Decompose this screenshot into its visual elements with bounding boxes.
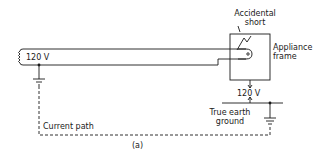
accidental-short-mark <box>237 36 251 50</box>
figure-caption: (a) <box>132 141 143 150</box>
current-path-label: Current path <box>43 122 94 131</box>
source-voltage-label: 120 V <box>26 53 49 62</box>
appliance-frame-label: Appliance frame <box>273 43 312 61</box>
appliance-frame-box <box>230 34 270 80</box>
frame-voltage-label: 120 V <box>237 89 260 98</box>
accidental-short-label: Accidental short <box>228 9 282 27</box>
source-coil <box>19 51 21 63</box>
true-earth-ground-label: True earth ground <box>204 108 256 126</box>
cord-lower-wire <box>20 59 246 65</box>
cord-upper-wire <box>20 49 246 51</box>
